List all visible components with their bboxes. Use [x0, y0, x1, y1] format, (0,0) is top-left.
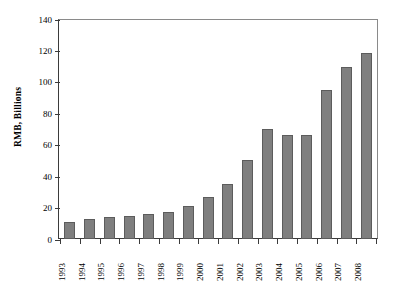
bar-slot	[218, 19, 238, 239]
x-tick-label: 2005	[294, 245, 304, 281]
bar-chart: RMB, Billions 020406080100120140 1993199…	[0, 0, 396, 289]
x-tick-mark	[218, 239, 219, 244]
x-tick-label: 2008	[353, 245, 363, 281]
x-tick-mark	[198, 239, 199, 244]
x-tick-label: 1995	[96, 245, 106, 281]
y-tick-label: 0	[48, 234, 53, 247]
bar-slot	[139, 19, 159, 239]
bar	[321, 90, 332, 239]
bar-slot	[297, 19, 317, 239]
bar	[361, 53, 372, 239]
x-tick-mark	[100, 239, 101, 244]
x-tick-mark	[258, 239, 259, 244]
y-tick-label: 60	[43, 139, 52, 152]
y-tick-label: 100	[39, 76, 53, 89]
bar	[64, 222, 75, 239]
x-tick-label: 1997	[136, 245, 146, 281]
bar	[282, 135, 293, 239]
bar	[262, 129, 273, 239]
bars-area	[58, 19, 378, 239]
x-tick-mark	[317, 239, 318, 244]
x-tick-mark	[376, 239, 377, 244]
x-axis-labels: 1993199419951996199719981999200020012002…	[58, 246, 378, 286]
bar-slot	[238, 19, 258, 239]
x-tick-label: 2002	[235, 245, 245, 281]
x-tick-mark	[356, 239, 357, 244]
x-tick-mark	[80, 239, 81, 244]
y-tick-label: 80	[43, 108, 52, 121]
bar	[222, 184, 233, 239]
bar-slot	[179, 19, 199, 239]
x-tick-label: 2001	[215, 245, 225, 281]
bar-slot	[60, 19, 80, 239]
bar	[301, 135, 312, 239]
x-tick-mark	[119, 239, 120, 244]
bar-slot	[317, 19, 337, 239]
x-tick-label: 2006	[314, 245, 324, 281]
bar	[124, 216, 135, 239]
x-tick-label: 1998	[156, 245, 166, 281]
x-tick-label: 1999	[175, 245, 185, 281]
bar-slot	[337, 19, 357, 239]
x-tick-label: 2000	[195, 245, 205, 281]
bar-slot	[159, 19, 179, 239]
y-tick-label: 120	[39, 45, 53, 58]
x-tick-label: 2004	[274, 245, 284, 281]
y-axis-title: RMB, Billions	[13, 52, 23, 182]
bar	[242, 160, 253, 239]
bar	[183, 206, 194, 239]
x-tick-mark	[159, 239, 160, 244]
x-tick-label: 1993	[57, 245, 67, 281]
bar	[143, 214, 154, 239]
x-tick-label: 2003	[254, 245, 264, 281]
x-tick-mark	[297, 239, 298, 244]
x-tick-mark	[238, 239, 239, 244]
x-tick-label: 1996	[116, 245, 126, 281]
bar-slot	[258, 19, 278, 239]
x-tick-mark	[139, 239, 140, 244]
bar	[341, 67, 352, 239]
x-tick-label: 2007	[333, 245, 343, 281]
bar-slot	[198, 19, 218, 239]
x-tick-mark	[60, 239, 61, 244]
bar	[203, 197, 214, 239]
x-axis-ticks	[58, 239, 378, 244]
bar-slot	[119, 19, 139, 239]
bar-slot	[80, 19, 100, 239]
x-tick-label: 1994	[77, 245, 87, 281]
bar-slot	[100, 19, 120, 239]
y-tick-label: 140	[39, 14, 53, 27]
x-label-slot: 2008	[356, 246, 376, 286]
x-tick-mark	[337, 239, 338, 244]
x-tick-mark	[179, 239, 180, 244]
bar	[104, 217, 115, 239]
bar-slot	[277, 19, 297, 239]
bar	[84, 219, 95, 239]
y-tick-label: 40	[43, 171, 52, 184]
x-tick-mark	[277, 239, 278, 244]
bar	[163, 212, 174, 240]
bar-slot	[356, 19, 376, 239]
y-tick-label: 20	[43, 202, 52, 215]
